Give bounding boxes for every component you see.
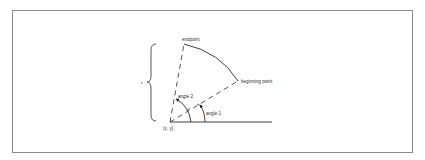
angle-1-label: angle 1 [206, 111, 222, 116]
beginning-point-label: beginning point [241, 79, 273, 84]
angle-2-label: angle 2 [178, 94, 194, 99]
origin-label: (x, y) [163, 126, 174, 131]
arc-diagram: endpoint beginning point angle 2 angle 1… [0, 0, 425, 160]
radius-brace [147, 44, 156, 121]
endpoint-label: endpoint [182, 37, 200, 42]
angle-1-arc [200, 105, 205, 122]
angle-2-tick [187, 108, 190, 110]
angle-1-tick [197, 104, 202, 106]
dashed-radius-endpoint [170, 44, 184, 122]
radius-label: r [141, 80, 143, 85]
main-arc [184, 44, 238, 81]
